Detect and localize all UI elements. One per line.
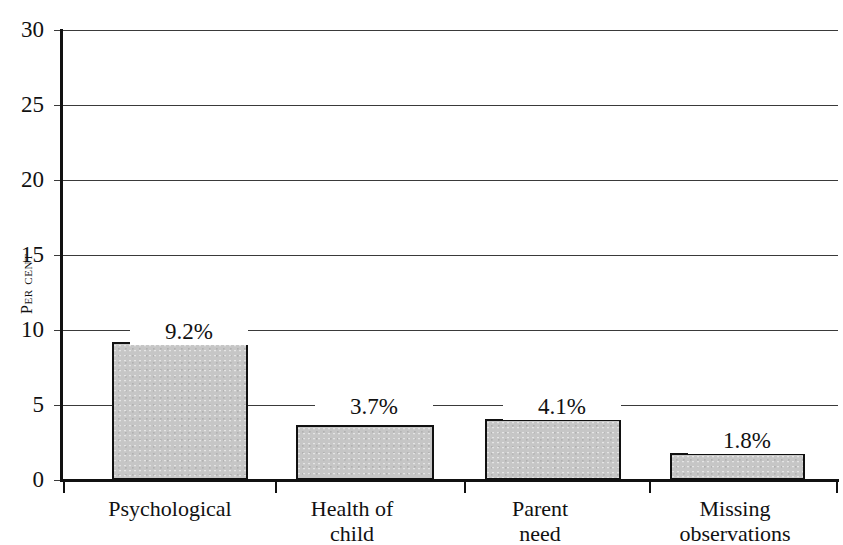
plot-area: 9.2% 3.7% 4.1% 1.8% [63,30,838,480]
gridline-20 [63,180,838,181]
category-label-line1: Psychological [60,497,280,522]
y-tick-label-25: 25 [0,93,44,116]
x-tick-mark-2 [464,481,466,493]
gridline-15 [63,255,838,256]
x-tick-mark-1 [275,481,277,493]
category-label-parent-need: Parent need [450,497,630,545]
y-tick-label-0: 0 [0,468,44,491]
y-tick-label-20: 20 [0,168,44,191]
bar-missing-observations[interactable] [670,453,805,480]
category-label-line2: child [262,522,442,545]
chart-title [62,0,782,4]
category-label-line2: observations [635,522,835,545]
category-label-line1: Missing [635,497,835,522]
value-label-health-of-child: 3.7% [315,393,433,420]
category-label-line1: Health of [262,497,442,522]
y-tick-label-10: 10 [0,318,44,341]
x-tick-mark-start [63,481,65,493]
x-tick-mark-end [836,481,838,493]
bar-chart-figure: Per cent 30 25 20 15 10 5 0 9.2% 3.7% 4.… [0,0,843,545]
x-tick-mark-3 [649,481,651,493]
bar-parent-need[interactable] [485,419,621,481]
y-tick-label-15: 15 [0,243,44,266]
category-label-line2: need [450,522,630,545]
category-label-missing-observations: Missing observations [635,497,835,545]
value-label-parent-need: 4.1% [503,393,621,420]
bar-health-of-child[interactable] [296,425,434,481]
y-tick-label-5: 5 [0,393,44,416]
category-label-psychological: Psychological [60,497,280,522]
value-label-missing-observations: 1.8% [688,427,806,454]
category-label-line1: Parent [450,497,630,522]
category-label-health-of-child: Health of child [262,497,442,545]
value-label-psychological: 9.2% [130,318,248,345]
gridline-25 [63,105,838,106]
bar-psychological[interactable] [112,342,248,480]
gridline-30 [63,30,838,31]
y-tick-label-30: 30 [0,18,44,41]
